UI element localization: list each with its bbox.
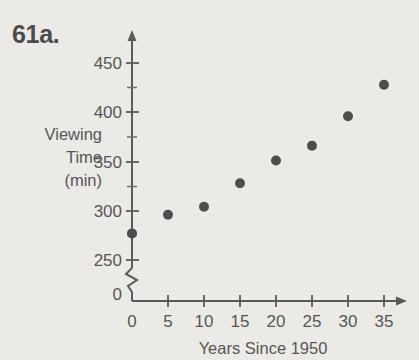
y-axis-break-icon xyxy=(126,268,137,292)
y-axis-title-line-3: (min) xyxy=(64,171,102,189)
data-point xyxy=(307,141,317,151)
x-axis-title: Years Since 1950 xyxy=(199,339,328,357)
y-tick-label-250: 250 xyxy=(94,251,122,270)
x-tick-label-10: 10 xyxy=(195,312,214,331)
x-tick-label-15: 15 xyxy=(231,312,250,331)
y-tick-label-zero: 0 xyxy=(113,285,122,304)
data-point xyxy=(127,228,137,238)
x-tick-label-0: 0 xyxy=(127,312,136,331)
data-point xyxy=(199,202,209,212)
y-tick-label-400: 400 xyxy=(94,103,122,122)
chart-figure: 61a. 450 400 350 300 xyxy=(0,0,419,360)
data-point xyxy=(235,178,245,188)
y-axis-title-line-1: Viewing xyxy=(45,125,102,143)
data-point xyxy=(343,111,353,121)
y-tick-label-450: 450 xyxy=(94,54,122,73)
scatter-plot: 450 400 350 300 250 0 Viewing Time (min)… xyxy=(0,0,419,360)
x-tick-label-25: 25 xyxy=(303,312,322,331)
x-axis-arrowhead xyxy=(396,297,407,306)
y-tick-label-300: 300 xyxy=(94,202,122,221)
x-tick-label-5: 5 xyxy=(163,312,172,331)
x-tick-label-35: 35 xyxy=(375,312,394,331)
data-point xyxy=(163,210,173,220)
x-tick-label-30: 30 xyxy=(339,312,358,331)
y-axis-arrowhead xyxy=(128,30,137,41)
data-point xyxy=(271,156,281,166)
y-axis-title-line-2: Time xyxy=(66,148,102,166)
x-tick-label-20: 20 xyxy=(267,312,286,331)
data-point-group xyxy=(127,80,389,239)
data-point xyxy=(379,80,389,90)
